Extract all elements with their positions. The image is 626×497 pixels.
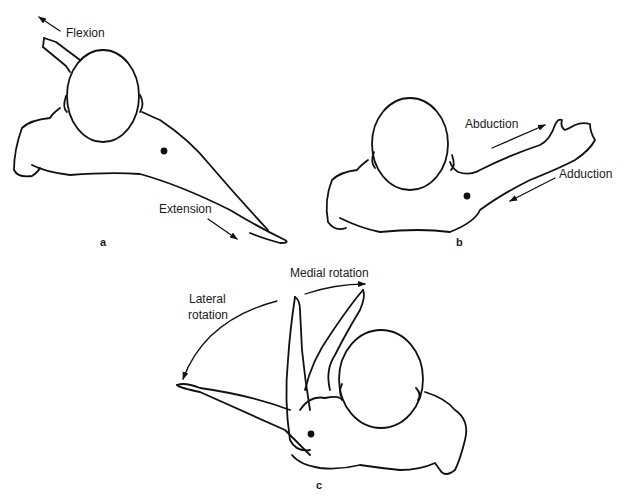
label-lateral-rotation-line1: Lateral [189, 292, 226, 306]
label-medial-rotation: Medial rotation [290, 266, 369, 280]
label-lateral-rotation-line2: rotation [188, 308, 228, 322]
figure-artwork [0, 0, 626, 497]
shoulder-movements-figure: Flexion Extension a Abduction Adduction … [0, 0, 626, 497]
label-abduction: Abduction [465, 117, 518, 131]
panel-letter-c: c [316, 479, 322, 491]
label-extension: Extension [159, 202, 212, 216]
panel-letter-b: b [456, 236, 463, 248]
panel-b-drawing [327, 98, 595, 232]
panel-letter-a: a [100, 236, 106, 248]
label-flexion: Flexion [66, 26, 105, 40]
label-adduction: Adduction [559, 167, 612, 181]
panel-a-drawing [14, 38, 287, 243]
